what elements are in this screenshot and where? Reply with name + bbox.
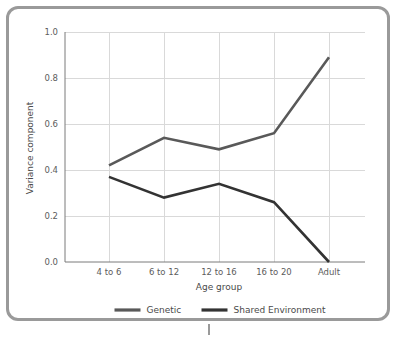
- line-chart: 0.00.20.40.60.81.0 4 to 66 to 1212 to 16…: [0, 0, 408, 340]
- x-axis-title: Age group: [196, 282, 243, 292]
- axis-lines: [65, 32, 365, 262]
- y-tick-label: 0.0: [44, 257, 58, 267]
- chart-legend: GeneticShared Environment: [115, 305, 326, 315]
- y-tick-label: 0.6: [44, 119, 58, 129]
- x-tick-labels: 4 to 66 to 1212 to 1616 to 20Adult: [97, 267, 341, 277]
- y-tick-label: 1.0: [44, 27, 58, 37]
- y-tick-labels: 0.00.20.40.60.81.0: [44, 27, 58, 267]
- x-tick-label: 4 to 6: [97, 267, 122, 277]
- figure-root: 0.00.20.40.60.81.0 4 to 66 to 1212 to 16…: [0, 0, 408, 340]
- y-tick-label: 0.2: [44, 211, 58, 221]
- x-tick-label: 16 to 20: [256, 267, 292, 277]
- y-tick-label: 0.4: [44, 165, 58, 175]
- y-axis-title: Variance component: [25, 101, 35, 194]
- x-tick-label: 12 to 16: [201, 267, 237, 277]
- y-tick-label: 0.8: [44, 73, 58, 83]
- legend-label: Genetic: [147, 305, 182, 315]
- x-tick-label: Adult: [318, 267, 341, 277]
- legend-label: Shared Environment: [234, 305, 326, 315]
- x-tick-label: 6 to 12: [149, 267, 179, 277]
- grid-lines: [65, 32, 365, 262]
